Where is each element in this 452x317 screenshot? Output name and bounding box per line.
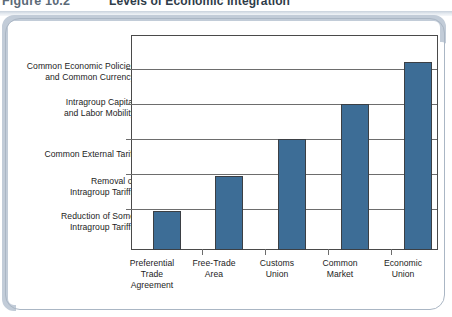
y-axis-label-2: Removal of Intragroup Tariffs bbox=[70, 176, 135, 197]
y-tick-2 bbox=[126, 174, 132, 175]
bar-preferential-trade-agreement[interactable] bbox=[153, 211, 181, 250]
x-tick-4 bbox=[391, 249, 392, 255]
bar-free-trade-area[interactable] bbox=[215, 176, 243, 250]
y-axis-label-5: Common Economic Policies and Common Curr… bbox=[27, 61, 135, 82]
x-tick-1 bbox=[202, 249, 203, 255]
y-tick-1 bbox=[126, 209, 132, 210]
bar-economic-union[interactable] bbox=[404, 62, 432, 250]
y-axis-label-4: Intragroup Capital and Labor Mobility bbox=[64, 97, 135, 118]
gridline-5 bbox=[132, 69, 437, 70]
gridline-4 bbox=[132, 104, 437, 105]
bar-customs-union[interactable] bbox=[278, 139, 306, 250]
bar-chart: Common Economic Policies and Common Curr… bbox=[0, 0, 452, 317]
y-axis-label-3: Common External Tariff bbox=[44, 149, 135, 160]
y-tick-4 bbox=[126, 104, 132, 105]
y-tick-3 bbox=[126, 139, 132, 140]
x-tick-2 bbox=[265, 249, 266, 255]
y-tick-5 bbox=[126, 69, 132, 70]
y-axis-label-1: Reduction of Some Intragroup Tariffs bbox=[61, 211, 135, 232]
x-tick-3 bbox=[328, 249, 329, 255]
x-axis-label-economic-union: Economic Union bbox=[360, 258, 446, 280]
plot-area bbox=[131, 35, 438, 250]
bar-common-market[interactable] bbox=[341, 104, 369, 250]
